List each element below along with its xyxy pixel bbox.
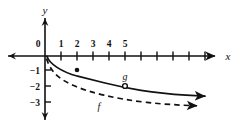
x-tick-label-2: 2 bbox=[75, 39, 80, 49]
curve-f-label: f bbox=[98, 101, 102, 112]
origin-label: 0 bbox=[36, 39, 41, 49]
coordinate-plane: 1 2 3 4 5 0 −1 −2 −3 y x g f bbox=[0, 0, 239, 128]
x-tick-label-5: 5 bbox=[123, 39, 128, 49]
curve-g-open-point bbox=[123, 84, 128, 89]
graph-figure: 1 2 3 4 5 0 −1 −2 −3 y x g f bbox=[0, 0, 239, 128]
x-tick-label-4: 4 bbox=[107, 39, 112, 49]
x-axis bbox=[8, 53, 215, 60]
x-tick-label-1: 1 bbox=[59, 39, 64, 49]
curve-g-filled-point bbox=[75, 68, 80, 73]
x-tick-label-3: 3 bbox=[91, 39, 96, 49]
y-axis-label: y bbox=[42, 4, 48, 16]
y-axis bbox=[42, 18, 49, 120]
curve-f-path bbox=[47, 59, 198, 106]
y-axis-ticks bbox=[45, 70, 51, 102]
curve-g-label: g bbox=[123, 71, 128, 82]
y-tick-label-minus3: −3 bbox=[30, 98, 40, 108]
y-tick-label-minus1: −1 bbox=[30, 66, 40, 76]
x-axis-label: x bbox=[225, 50, 231, 62]
curve-g: g bbox=[47, 56, 205, 96]
curve-f: f bbox=[47, 59, 198, 113]
y-tick-label-minus2: −2 bbox=[30, 82, 40, 92]
